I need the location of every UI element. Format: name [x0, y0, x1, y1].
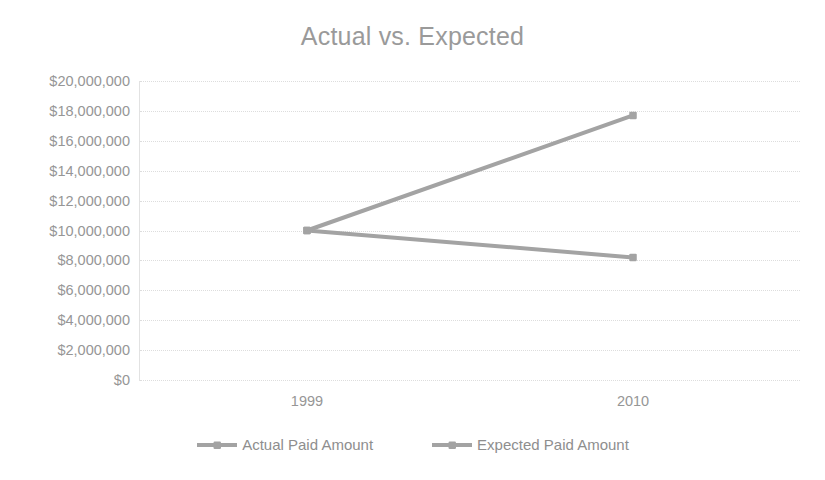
data-point-marker — [303, 227, 311, 235]
legend-item[interactable]: Expected Paid Amount — [431, 436, 629, 453]
data-point-marker — [629, 112, 637, 120]
series-1 — [303, 227, 637, 261]
gridline — [140, 380, 800, 381]
chart-title: Actual vs. Expected — [0, 22, 825, 51]
y-axis-tick-label: $18,000,000 — [0, 103, 130, 119]
y-axis-tick-label: $10,000,000 — [0, 223, 130, 239]
y-axis-tick-label: $0 — [0, 372, 130, 388]
x-axis-tick-labels: 19992010 — [140, 393, 800, 415]
x-axis-tick-label: 1999 — [291, 393, 323, 409]
series-2 — [303, 112, 637, 235]
y-axis-tick-label: $8,000,000 — [0, 252, 130, 268]
series-line — [307, 115, 633, 230]
legend-item[interactable]: Actual Paid Amount — [196, 436, 373, 453]
y-axis-tick-label: $12,000,000 — [0, 193, 130, 209]
series-line — [307, 231, 633, 258]
legend-label: Expected Paid Amount — [477, 436, 629, 453]
legend-line-marker-icon — [431, 438, 473, 452]
y-axis-tick-label: $16,000,000 — [0, 133, 130, 149]
chart-container: Actual vs. Expected $20,000,000$18,000,0… — [0, 0, 825, 480]
data-point-marker — [629, 254, 637, 262]
chart-legend: Actual Paid AmountExpected Paid Amount — [0, 436, 825, 453]
x-axis-tick-label: 2010 — [617, 393, 649, 409]
y-axis-tick-label: $20,000,000 — [0, 73, 130, 89]
series-lines — [140, 81, 800, 380]
legend-label: Actual Paid Amount — [242, 436, 373, 453]
y-axis-tick-label: $14,000,000 — [0, 163, 130, 179]
y-axis-tick-labels: $20,000,000$18,000,000$16,000,000$14,000… — [0, 81, 130, 380]
y-axis-tick-label: $4,000,000 — [0, 312, 130, 328]
legend-line-marker-icon — [196, 438, 238, 452]
plot-area — [140, 81, 800, 380]
y-axis-tick-label: $2,000,000 — [0, 342, 130, 358]
y-axis-tick-label: $6,000,000 — [0, 282, 130, 298]
